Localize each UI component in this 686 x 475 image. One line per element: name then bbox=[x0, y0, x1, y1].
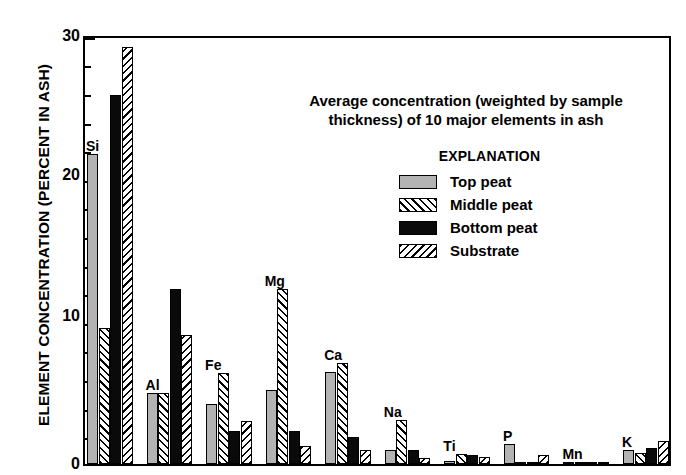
bar-mg-bottom-peat[interactable] bbox=[289, 431, 300, 464]
legend-title: EXPLANATION bbox=[365, 148, 614, 164]
bar-si-top-peat[interactable] bbox=[87, 154, 98, 464]
bar-group-label-p: P bbox=[503, 429, 512, 443]
bar-ca-top-peat[interactable] bbox=[325, 372, 336, 464]
y-tick-label-30: 30 bbox=[46, 28, 80, 44]
bar-fe-bottom-peat[interactable] bbox=[229, 431, 240, 464]
bar-na-bottom-peat[interactable] bbox=[408, 450, 419, 464]
legend-item-bottom-peat[interactable]: Bottom peat bbox=[399, 219, 614, 236]
bar-si-bottom-peat[interactable] bbox=[110, 95, 121, 464]
bar-mn-bottom-peat[interactable] bbox=[586, 462, 597, 464]
caption-line-1: Average concentration (weighted by sampl… bbox=[282, 92, 650, 111]
bar-si-substrate[interactable] bbox=[122, 47, 133, 464]
bar-ca-bottom-peat[interactable] bbox=[348, 437, 359, 464]
bar-group-fe: Fe bbox=[206, 38, 252, 464]
bar-al-middle-peat[interactable] bbox=[158, 393, 169, 464]
bar-ca-middle-peat[interactable] bbox=[337, 363, 348, 464]
bar-ca-substrate[interactable] bbox=[360, 450, 371, 464]
bar-k-middle-peat[interactable] bbox=[635, 453, 646, 464]
bar-group-al: Al bbox=[147, 38, 193, 464]
bar-ti-middle-peat[interactable] bbox=[456, 454, 467, 464]
bar-fe-middle-peat[interactable] bbox=[218, 373, 229, 464]
bar-ti-bottom-peat[interactable] bbox=[467, 455, 478, 464]
bar-group-label-k: K bbox=[622, 435, 632, 449]
bar-p-top-peat[interactable] bbox=[504, 444, 515, 464]
bar-si-middle-peat[interactable] bbox=[99, 328, 110, 464]
bar-group-label-na: Na bbox=[384, 405, 402, 419]
legend-label-top-peat: Top peat bbox=[450, 173, 511, 190]
bar-group-label-mg: Mg bbox=[265, 274, 285, 288]
bar-mg-middle-peat[interactable] bbox=[277, 289, 288, 464]
bar-na-middle-peat[interactable] bbox=[396, 420, 407, 464]
legend-label-middle-peat: Middle peat bbox=[450, 196, 533, 213]
bar-na-top-peat[interactable] bbox=[385, 450, 396, 464]
bar-group-label-ti: Ti bbox=[443, 439, 455, 453]
y-tick-label-20: 20 bbox=[46, 167, 80, 183]
bar-na-substrate[interactable] bbox=[419, 458, 430, 464]
chart-caption: Average concentration (weighted by sampl… bbox=[282, 92, 650, 130]
bar-mn-middle-peat[interactable] bbox=[575, 462, 586, 464]
chart-figure: ELEMENT CONCENTRATION (PERCENT IN ASH) 3… bbox=[0, 0, 686, 475]
legend-label-bottom-peat: Bottom peat bbox=[450, 219, 538, 236]
bar-group-si: Si bbox=[87, 38, 133, 464]
bar-al-bottom-peat[interactable] bbox=[170, 289, 181, 464]
bar-p-middle-peat[interactable] bbox=[515, 462, 526, 464]
bar-group-label-mn: Mn bbox=[562, 447, 582, 461]
y-tick-label-0: 0 bbox=[46, 456, 80, 472]
legend-swatch-middle-peat bbox=[399, 198, 437, 212]
legend: EXPLANATION Top peat Middle peat Bottom … bbox=[399, 148, 614, 265]
legend-item-top-peat[interactable]: Top peat bbox=[399, 173, 614, 190]
bar-fe-substrate[interactable] bbox=[241, 421, 252, 464]
legend-swatch-substrate bbox=[399, 244, 437, 258]
legend-swatch-bottom-peat bbox=[399, 221, 437, 235]
bar-ti-top-peat[interactable] bbox=[444, 461, 455, 464]
bar-p-bottom-peat[interactable] bbox=[527, 462, 538, 464]
legend-label-substrate: Substrate bbox=[450, 242, 519, 259]
bar-group-label-al: Al bbox=[146, 378, 160, 392]
legend-item-substrate[interactable]: Substrate bbox=[399, 242, 614, 259]
bar-mg-substrate[interactable] bbox=[300, 446, 311, 464]
bar-group-label-fe: Fe bbox=[205, 358, 221, 372]
y-axis-tick-labels: 30 20 10 0 bbox=[42, 0, 80, 475]
bar-al-substrate[interactable] bbox=[181, 335, 192, 464]
bar-al-top-peat[interactable] bbox=[147, 393, 158, 464]
bar-group-label-si: Si bbox=[86, 139, 99, 153]
bar-fe-top-peat[interactable] bbox=[206, 404, 217, 464]
bar-mg-top-peat[interactable] bbox=[266, 390, 277, 464]
y-tick-label-10: 10 bbox=[46, 308, 80, 324]
bar-mn-substrate[interactable] bbox=[598, 462, 609, 464]
bar-k-top-peat[interactable] bbox=[623, 450, 634, 464]
bar-mn-top-peat[interactable] bbox=[563, 462, 574, 464]
bar-p-substrate[interactable] bbox=[538, 455, 549, 464]
bar-k-substrate[interactable] bbox=[658, 441, 669, 464]
bar-group-label-ca: Ca bbox=[324, 348, 342, 362]
bar-ti-substrate[interactable] bbox=[479, 457, 490, 464]
caption-line-2: thickness) of 10 major elements in ash bbox=[282, 111, 650, 130]
legend-item-middle-peat[interactable]: Middle peat bbox=[399, 196, 614, 213]
legend-swatch-top-peat bbox=[399, 175, 437, 189]
bar-k-bottom-peat[interactable] bbox=[646, 448, 657, 464]
